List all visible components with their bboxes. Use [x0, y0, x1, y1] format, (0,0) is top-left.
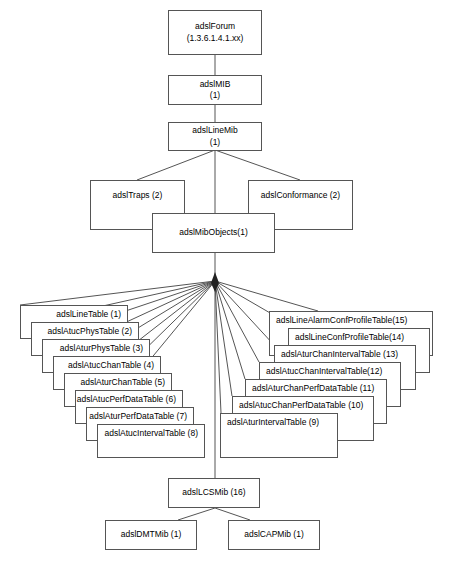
stack-item-right-13-label: adslAturChanIntervalTable (13): [281, 349, 398, 359]
fan-line-12: [215, 281, 259, 362]
fan-line-1: [20, 281, 215, 305]
edge-lcsmib-dmtmib: [178, 508, 215, 520]
node-adsl-mib-line1: adslMIB: [200, 79, 231, 90]
fan-convergence-blob: [211, 272, 219, 292]
node-adsl-forum[interactable]: adslForum (1.3.6.1.4.1.xx): [168, 10, 262, 55]
stack-item-left-8[interactable]: adslAtucIntervalTable (8): [97, 424, 205, 458]
stack-item-right-14-label: adslLineConfProfileTable(14): [295, 332, 404, 342]
mib-tree-diagram: adslForum (1.3.6.1.4.1.xx) adslMIB (1) a…: [0, 0, 451, 575]
node-adsl-forum-line2: (1.3.6.1.4.1.xx): [187, 33, 244, 44]
stack-item-left-5-label: adslAturChanTable (5): [80, 377, 165, 387]
edge-linemib-traps: [137, 150, 215, 180]
node-adsl-mib-objects[interactable]: adslMibObjects(1): [152, 213, 275, 253]
fan-line-10: [215, 281, 232, 396]
stack-item-right-15-label: adslLineAlarmConfProfileTable(15): [276, 315, 407, 325]
node-adsl-line-mib-line1: adslLineMib: [192, 125, 237, 136]
node-adsl-traps-label: adslTraps (2): [113, 190, 163, 201]
stack-item-left-1-label: adslLineTable (1): [56, 309, 121, 319]
node-adsl-cap-mib[interactable]: adslCAPMib (1): [228, 520, 320, 550]
edge-lcsmib-capmib: [215, 508, 250, 520]
node-adsl-dmt-mib[interactable]: adslDMTMib (1): [105, 520, 197, 550]
stack-item-right-10-label: adslAtucChanPerfDataTable (10): [239, 400, 363, 410]
node-adsl-dmt-mib-label: adslDMTMib (1): [121, 529, 181, 540]
node-adsl-cap-mib-label: adslCAPMib (1): [244, 529, 304, 540]
edge-linemib-conformance: [215, 150, 300, 180]
node-adsl-lcs-mib-label: adslLCSMib (16): [182, 487, 245, 498]
stack-item-left-7-label: adslAturPerfDataTable (7): [89, 411, 187, 421]
node-adsl-lcs-mib[interactable]: adslLCSMib (16): [168, 478, 260, 508]
stack-item-right-9[interactable]: adslAturIntervalTable (9): [220, 413, 338, 458]
node-adsl-line-mib-line2: (1): [210, 137, 220, 148]
node-adsl-mib-objects-label: adslMibObjects(1): [179, 227, 248, 238]
fan-line-11: [215, 281, 245, 379]
stack-item-right-9-label: adslAturIntervalTable (9): [227, 417, 319, 427]
node-adsl-mib[interactable]: adslMIB (1): [168, 75, 262, 105]
node-adsl-line-mib[interactable]: adslLineMib (1): [168, 122, 262, 151]
fan-line-13: [215, 281, 274, 345]
stack-item-left-2-label: adslAtucPhysTable (2): [47, 326, 132, 336]
stack-item-left-6-label: adslAtucPerfDataTable (6): [77, 394, 176, 404]
fan-line-9: [215, 281, 221, 413]
stack-item-left-8-label: adslAtucIntervalTable (8): [104, 428, 198, 438]
stack-item-right-12-label: adslAtucChanIntervalTable(12): [266, 366, 382, 376]
node-adsl-conformance-label: adslConformance (2): [261, 190, 340, 201]
stack-item-left-3-label: adslAturPhysTable (3): [60, 343, 143, 353]
node-adsl-forum-line1: adslForum: [195, 21, 235, 32]
fan-line-15: [215, 281, 318, 311]
stack-item-left-4-label: adslAtucChanTable (4): [68, 360, 154, 370]
node-adsl-mib-line2: (1): [210, 90, 220, 101]
stack-item-right-11-label: adslAturChanPerfDataTable (11): [252, 383, 374, 393]
